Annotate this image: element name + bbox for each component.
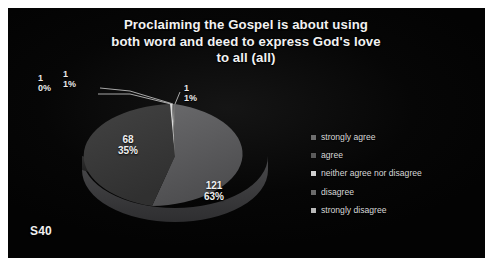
data-label-strongly-disagree: 1 0% [38,74,51,93]
pie-chart-svg [70,86,280,226]
data-label-value: 68 [122,134,133,145]
legend-label: strongly disagree [321,206,386,215]
slide-number-tag: S40 [30,224,52,238]
legend-label: neither agree nor disagree [321,169,422,178]
data-label-value: 121 [206,180,223,191]
legend-item-agree[interactable]: agree [311,146,476,164]
legend-label: disagree [321,188,354,197]
title-line-1: Proclaiming the Gospel is about using [46,17,446,34]
pie-chart [70,86,280,226]
data-label-percent: 1% [63,80,76,90]
title-line-2: both word and deed to express God's love [46,34,446,51]
chart-legend: strongly agree agree neither agree nor d… [311,128,476,220]
legend-item-neither-agree-nor-disagree[interactable]: neither agree nor disagree [311,165,476,183]
leader-line-neither [175,92,180,104]
data-label-disagree: 1 1% [63,70,76,89]
data-label-agree: 68 35% [118,134,138,156]
legend-swatch-icon [311,153,316,158]
leader-line-strongly-disagree [98,94,171,104]
slide-page: Proclaiming the Gospel is about using bo… [0,0,501,274]
title-line-3: to all (all) [46,50,446,67]
legend-item-disagree[interactable]: disagree [311,183,476,201]
data-label-percent: 0% [38,84,51,94]
data-label-percent: 35% [118,145,138,156]
legend-item-strongly-agree[interactable]: strongly agree [311,128,476,146]
data-label-percent: 63% [204,191,224,202]
legend-swatch-icon [311,171,316,176]
data-label-neither: 1 1% [184,84,197,103]
page-title: Proclaiming the Gospel is about using bo… [46,17,446,67]
legend-swatch-icon [311,190,316,195]
legend-label: agree [321,151,343,160]
legend-item-strongly-disagree[interactable]: strongly disagree [311,202,476,220]
legend-swatch-icon [311,208,316,213]
data-label-strongly-agree: 121 63% [204,180,224,202]
legend-swatch-icon [311,135,316,140]
data-label-percent: 1% [184,94,197,104]
presentation-slide: Proclaiming the Gospel is about using bo… [8,8,485,258]
legend-label: strongly agree [321,133,375,142]
